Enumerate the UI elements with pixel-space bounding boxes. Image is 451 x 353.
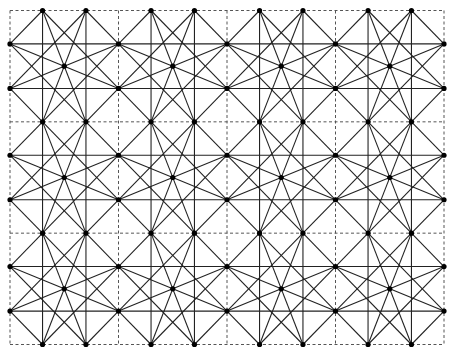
graph-edge: [119, 233, 152, 266]
boundary-vertex: [40, 8, 45, 13]
boundary-vertex: [148, 119, 153, 124]
boundary-vertex: [40, 231, 45, 236]
boundary-vertex: [441, 86, 446, 91]
graph-edge: [260, 233, 336, 311]
boundary-vertex: [148, 8, 153, 13]
graph-edge: [368, 267, 444, 345]
graph-edge: [151, 267, 227, 345]
boundary-vertex: [333, 197, 338, 202]
boundary-vertex: [116, 264, 121, 269]
center-vertex: [279, 286, 284, 291]
graph-edge: [119, 122, 195, 200]
graph-edge: [119, 88, 152, 121]
graph-edge: [10, 11, 86, 89]
graph-edge: [227, 122, 303, 200]
graph-edge: [336, 233, 369, 266]
boundary-vertex: [333, 86, 338, 91]
boundary-vertex: [365, 231, 370, 236]
graph-edge: [86, 122, 119, 155]
center-vertex: [62, 175, 67, 180]
graph-edge: [227, 200, 260, 233]
graph-edge: [227, 233, 260, 266]
graph-edge: [336, 155, 412, 233]
graph-edge: [151, 11, 227, 89]
graph-edge: [119, 233, 195, 311]
graph-edge: [86, 11, 119, 44]
graph-edge: [43, 11, 119, 89]
graph-edge: [260, 44, 336, 122]
center-vertex: [387, 64, 392, 69]
boundary-vertex: [333, 309, 338, 314]
boundary-vertex: [441, 41, 446, 46]
graph-edge: [227, 11, 303, 89]
graph-edge: [151, 44, 227, 122]
graph-edge: [10, 233, 43, 266]
boundary-vertex: [257, 342, 262, 347]
boundary-vertex: [333, 153, 338, 158]
boundary-vertex: [224, 86, 229, 91]
boundary-vertex: [224, 153, 229, 158]
graph-edge: [336, 267, 412, 345]
center-vertex: [170, 175, 175, 180]
graph-edge: [227, 11, 260, 44]
graph-edge: [10, 233, 86, 311]
boundary-vertex: [148, 231, 153, 236]
graph-edge: [151, 233, 227, 311]
graph-edge: [368, 11, 444, 89]
graph-edge: [10, 267, 86, 345]
boundary-vertex: [116, 86, 121, 91]
graph-edge: [119, 155, 195, 233]
boundary-vertex: [409, 342, 414, 347]
graph-edge: [303, 200, 336, 233]
boundary-vertex: [192, 8, 197, 13]
graph-edge: [336, 311, 369, 344]
boundary-vertex: [224, 197, 229, 202]
graph-edge: [194, 122, 227, 155]
graph-edge: [119, 267, 195, 345]
boundary-vertex: [7, 86, 12, 91]
graph-edge: [194, 233, 227, 266]
boundary-vertex: [333, 41, 338, 46]
boundary-vertex: [365, 342, 370, 347]
graph-edge: [227, 311, 260, 344]
graph-edge: [194, 11, 227, 44]
boundary-vertex: [116, 309, 121, 314]
boundary-vertex: [300, 119, 305, 124]
center-vertex: [387, 286, 392, 291]
graph-edge: [10, 11, 43, 44]
graph-edge: [43, 233, 119, 311]
boundary-vertex: [83, 119, 88, 124]
graph-edge: [227, 44, 303, 122]
boundary-vertex: [257, 119, 262, 124]
graph-edge: [86, 200, 119, 233]
graph-edge: [10, 44, 86, 122]
graph-edge: [411, 88, 444, 121]
boundary-vertex: [300, 342, 305, 347]
graph-edge: [119, 11, 195, 89]
graph-edge: [194, 311, 227, 344]
graph-edge: [227, 122, 260, 155]
boundary-vertex: [224, 309, 229, 314]
center-vertex: [170, 64, 175, 69]
graph-edge: [303, 311, 336, 344]
boundary-vertex: [148, 342, 153, 347]
graph-edge: [260, 155, 336, 233]
boundary-vertex: [83, 231, 88, 236]
graph-edge: [303, 122, 336, 155]
graph-edge: [43, 155, 119, 233]
graph-edge: [260, 11, 336, 89]
boundary-vertex: [192, 119, 197, 124]
graph-edge: [336, 233, 412, 311]
boundary-vertex: [409, 119, 414, 124]
graph-edge: [411, 11, 444, 44]
graph-edge: [260, 267, 336, 345]
boundary-vertex: [224, 264, 229, 269]
graph-edge: [336, 44, 412, 122]
boundary-vertex: [441, 197, 446, 202]
boundary-vertex: [116, 197, 121, 202]
graph-edge: [194, 200, 227, 233]
graph-edge: [411, 200, 444, 233]
graph-edge: [10, 88, 43, 121]
boundary-vertex: [300, 8, 305, 13]
center-vertex: [279, 64, 284, 69]
